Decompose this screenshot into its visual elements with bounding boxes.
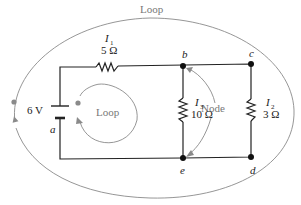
node-a-label: a: [50, 123, 56, 135]
inner-loop-arrow-icon: [76, 117, 83, 124]
node-c-dot: [248, 61, 254, 67]
inner-loop-start-dot: [75, 100, 80, 105]
node-e-label: e: [180, 164, 185, 176]
node-b-label: b: [182, 48, 188, 60]
resistor-5ohm-icon: [96, 63, 118, 71]
r1-value-label: 5 Ω: [101, 44, 117, 56]
node-d-label: d: [250, 164, 256, 176]
node-arrow-b-head-icon: [186, 67, 193, 73]
outer-loop-start-dot: [11, 99, 16, 104]
inner-loop-label: Loop: [96, 106, 120, 118]
node-arrow-to-b: [189, 69, 215, 103]
node-b-dot: [180, 63, 186, 69]
node-e-dot: [180, 155, 186, 161]
circuit-diagram: Loop Loop Node 6 V a b c d e I 1 5 Ω I 3…: [0, 0, 301, 205]
node-arrow-to-e: [188, 118, 211, 155]
resistor-10ohm-icon: [179, 98, 187, 122]
node-c-label: c: [249, 47, 254, 59]
outer-loop-label: Loop: [140, 3, 164, 15]
node-d-dot: [248, 154, 254, 160]
r2-value-label: 3 Ω: [263, 108, 279, 120]
resistor-3ohm-icon: [247, 99, 255, 121]
battery-icon: [51, 106, 69, 118]
battery-voltage-label: 6 V: [27, 104, 43, 116]
r3-value-label: 10 Ω: [191, 108, 213, 120]
